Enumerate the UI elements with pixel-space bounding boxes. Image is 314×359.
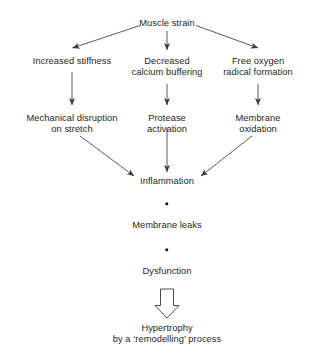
node-free-oxygen-radical-formation: Free oxygen radical formation — [204, 56, 312, 79]
connector-dot-leaks-to-dysfunction — [165, 248, 168, 251]
edge-mechanical-to-inflammation — [80, 136, 134, 176]
node-membrane-leaks: Membrane leaks — [97, 220, 237, 231]
edge-oxidation-to-inflammation — [201, 136, 252, 176]
node-hypertrophy: Hypertrophy by a ‘remodelling’ process — [62, 323, 272, 346]
flowchart-diagram: Muscle strain Increased stiffness Decrea… — [0, 0, 314, 359]
node-protease-activation: Protease activation — [119, 113, 215, 136]
node-inflammation: Inflammation — [107, 176, 227, 187]
connector-dot-inflammation-to-leaks — [165, 202, 168, 205]
node-membrane-oxidation: Membrane oxidation — [210, 113, 306, 136]
hollow-block-arrow-dysfunction-to-hypertrophy — [155, 289, 179, 318]
node-dysfunction: Dysfunction — [107, 266, 227, 277]
node-muscle-strain: Muscle strain — [102, 18, 232, 29]
